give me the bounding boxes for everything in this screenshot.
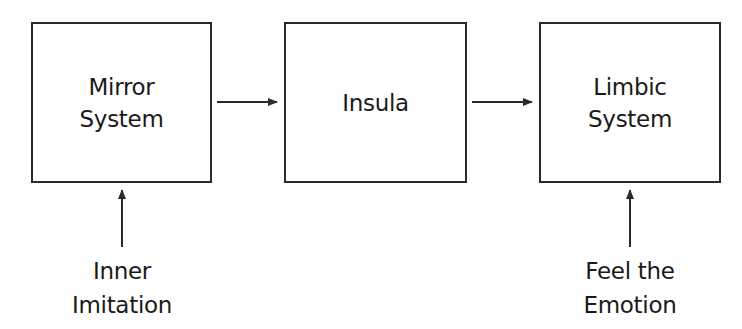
feel-the-emotion-label: Feel the Emotion: [550, 254, 710, 322]
inner-imitation-label: Inner Imitation: [42, 254, 202, 322]
